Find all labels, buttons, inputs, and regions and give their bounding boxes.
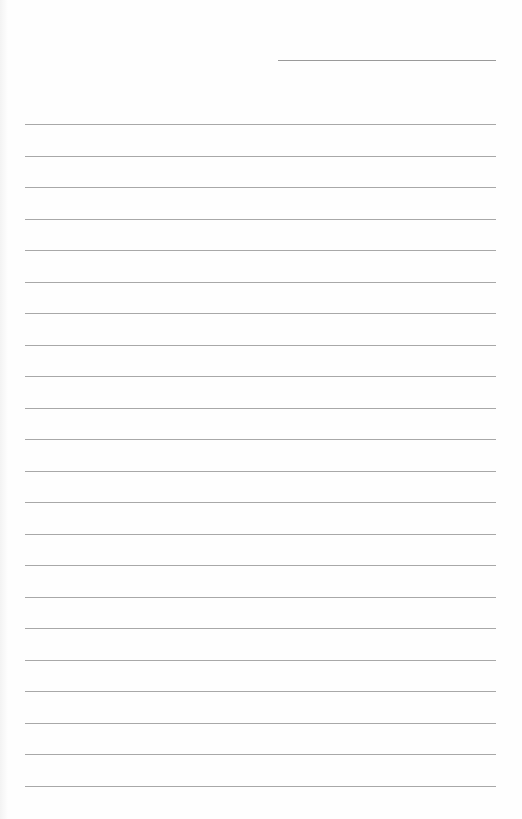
ruled-line: [25, 376, 496, 377]
ruled-line: [25, 124, 496, 125]
ruled-line: [25, 187, 496, 188]
header-name-line: [278, 60, 496, 61]
ruled-line: [25, 691, 496, 692]
ruled-line: [25, 156, 496, 157]
page-left-edge: [0, 0, 8, 819]
ruled-line: [25, 345, 496, 346]
ruled-line: [25, 313, 496, 314]
ruled-line: [25, 786, 496, 787]
ruled-line: [25, 219, 496, 220]
ruled-line: [25, 754, 496, 755]
ruled-line: [25, 660, 496, 661]
ruled-line: [25, 282, 496, 283]
ruled-line: [25, 502, 496, 503]
ruled-line: [25, 723, 496, 724]
ruled-line: [25, 628, 496, 629]
ruled-line: [25, 597, 496, 598]
ruled-line: [25, 408, 496, 409]
lined-paper-page: [0, 0, 522, 819]
ruled-line: [25, 565, 496, 566]
ruled-line: [25, 471, 496, 472]
ruled-line: [25, 534, 496, 535]
ruled-line: [25, 250, 496, 251]
ruled-line: [25, 439, 496, 440]
